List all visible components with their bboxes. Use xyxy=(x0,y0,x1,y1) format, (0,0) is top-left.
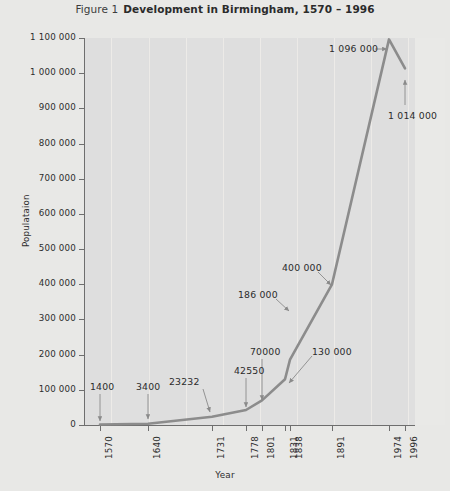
x-axis-title: Year xyxy=(0,470,450,480)
x-axis-tick xyxy=(405,426,406,431)
y-axis-tick-label: 900 000 xyxy=(39,102,76,112)
y-axis-tick-label: 500 000 xyxy=(39,243,76,253)
data-point-label: 186 000 xyxy=(238,289,278,300)
x-axis-tick xyxy=(246,426,247,431)
vertical-gridline xyxy=(149,38,150,425)
y-axis-tick-label: 600 000 xyxy=(39,208,76,218)
x-axis-tick xyxy=(262,426,263,431)
figure-container: Figure 1Development in Birmingham, 1570 … xyxy=(0,0,450,491)
y-axis-tick-label: 400 000 xyxy=(39,278,76,288)
x-axis-tick xyxy=(290,426,291,431)
x-axis-tick-label: 1801 xyxy=(266,436,276,459)
y-axis-tick-label: 1 000 000 xyxy=(30,67,76,77)
x-axis-tick-label: 1640 xyxy=(152,436,162,459)
data-point-label: 23232 xyxy=(169,376,200,387)
x-axis-tick-label: 1778 xyxy=(250,436,260,459)
vertical-gridline xyxy=(297,38,298,425)
data-point-label: 1400 xyxy=(90,381,114,392)
y-axis-tick-label: 300 000 xyxy=(39,313,76,323)
figure-title: Figure 1Development in Birmingham, 1570 … xyxy=(0,3,450,15)
x-axis-tick-label: 1891 xyxy=(336,436,346,459)
background-band xyxy=(111,38,148,425)
x-axis-tick-label: 1570 xyxy=(104,436,114,459)
data-point-label: 3400 xyxy=(136,381,160,392)
x-axis-tick xyxy=(148,426,149,431)
background-band xyxy=(408,38,445,425)
x-axis-tick xyxy=(212,426,213,431)
background-band xyxy=(186,38,223,425)
data-point-label: 42550 xyxy=(234,365,265,376)
data-point-label: 1 096 000 xyxy=(329,43,378,54)
background-band xyxy=(334,38,371,425)
figure-title-text: Development in Birmingham, 1570 – 1996 xyxy=(123,3,374,15)
data-point-label: 1 014 000 xyxy=(388,110,437,121)
x-axis-tick xyxy=(389,426,390,431)
y-axis-tick-label: 800 000 xyxy=(39,138,76,148)
vertical-gridline xyxy=(371,38,372,425)
x-axis-tick xyxy=(285,426,286,431)
y-axis-tick-label: 1 100 000 xyxy=(30,32,76,42)
x-axis-tick xyxy=(332,426,333,431)
x-axis-tick-label: 1974 xyxy=(393,436,403,459)
vertical-gridline xyxy=(223,38,224,425)
figure-number: Figure 1 xyxy=(75,3,118,15)
data-point-label: 130 000 xyxy=(312,346,352,357)
data-point-label: 70000 xyxy=(250,346,281,357)
x-axis-tick-label: 1996 xyxy=(409,436,419,459)
x-axis-tick-label: 1731 xyxy=(216,436,226,459)
data-point-label: 400 000 xyxy=(282,262,322,273)
x-axis-tick xyxy=(100,426,101,431)
y-axis-tick-label: 200 000 xyxy=(39,349,76,359)
y-axis-title: Populataion xyxy=(21,194,31,247)
y-axis-tick-label: 700 000 xyxy=(39,173,76,183)
y-axis-tick-label: 0 xyxy=(70,419,76,429)
y-axis-tick-label: 100 000 xyxy=(39,384,76,394)
x-axis-tick-label: 1838 xyxy=(294,436,304,459)
background-band xyxy=(260,38,297,425)
